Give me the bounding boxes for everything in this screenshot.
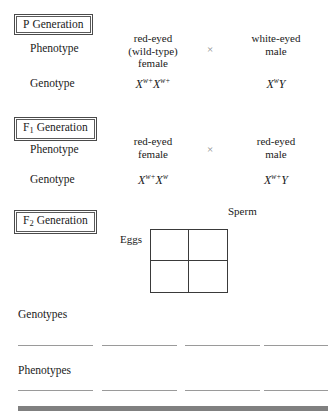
p-generation-female-genotype: Xw+Xw+	[105, 74, 201, 91]
p-generation-female-phenotype: red-eyed (wild-type) female	[105, 32, 201, 70]
f1-generation-female-phenotype-line1: red-eyed	[105, 135, 201, 148]
f1-generation-female-phenotype: red-eyed female	[105, 135, 201, 160]
footer-divider-bar	[18, 406, 328, 411]
f1-generation-label-text: F1Generation	[16, 119, 95, 139]
f2-generation-label-text: F2Generation	[16, 212, 95, 232]
genotype-blank-1[interactable]	[18, 345, 93, 346]
f1-generation-female-genotype-allele1-sup: w+	[145, 172, 155, 181]
genotype-blank-2[interactable]	[102, 345, 177, 346]
p-generation-female-phenotype-line1: red-eyed	[105, 32, 201, 45]
genotypes-label: Genotypes	[18, 307, 67, 321]
p-generation-male-phenotype-line1: white-eyed	[228, 32, 324, 45]
punnett-cell-4[interactable]	[189, 261, 227, 292]
p-generation-female-phenotype-line3: female	[105, 57, 201, 70]
phenotype-blank-1[interactable]	[18, 390, 93, 391]
sperm-axis-label: Sperm	[228, 205, 257, 218]
p-generation-female-phenotype-line2: (wild-type)	[105, 45, 201, 58]
p-generation-label-main: P	[23, 18, 29, 30]
f1-generation-label-word: Generation	[37, 121, 88, 133]
p-generation-phenotype-row-label: Phenotype	[30, 41, 79, 55]
f1-generation-male-phenotype-line2: male	[228, 148, 324, 161]
f2-generation-label-word: Generation	[37, 214, 88, 226]
phenotype-blank-2[interactable]	[102, 390, 177, 391]
f1-generation-phenotype-row-label: Phenotype	[30, 142, 79, 156]
f1-generation-male-phenotype: red-eyed male	[228, 135, 324, 160]
punnett-square[interactable]	[150, 229, 228, 293]
p-generation-female-genotype-allele2-sup: w+	[160, 76, 170, 85]
punnett-cell-1[interactable]	[151, 230, 189, 261]
f1-generation-label-sub: 1	[29, 125, 33, 135]
p-generation-male-phenotype-line2: male	[228, 45, 324, 58]
genotype-blank-4[interactable]	[264, 345, 328, 346]
f2-generation-label-sub: 2	[29, 218, 33, 228]
f1-generation-cross-symbol: ×	[203, 144, 217, 155]
p-generation-female-genotype-allele1-sup: w+	[143, 76, 153, 85]
p-generation-female-genotype-allele1-base: X	[136, 77, 143, 91]
p-generation-cross-symbol: ×	[203, 44, 217, 55]
f1-generation-female-genotype-allele2-sup: w	[163, 172, 168, 181]
f1-generation-female-genotype-allele2-base: X	[156, 173, 163, 187]
f1-generation-label-box: F1Generation	[14, 117, 97, 141]
p-generation-label-word: Generation	[32, 18, 83, 30]
f1-generation-male-genotype-allele1-sup: w+	[271, 172, 281, 181]
punnett-cell-2[interactable]	[189, 230, 227, 261]
worksheet-page: PGeneration Phenotype red-eyed (wild-typ…	[0, 0, 328, 415]
f1-generation-male-phenotype-line1: red-eyed	[228, 135, 324, 148]
f1-generation-male-genotype-allele2-base: Y	[281, 173, 288, 187]
f1-generation-male-genotype: Xw+Y	[228, 170, 324, 187]
phenotypes-label: Phenotypes	[18, 363, 71, 377]
f1-generation-genotype-row-label: Genotype	[30, 172, 75, 186]
f1-generation-female-phenotype-line2: female	[105, 148, 201, 161]
p-generation-label-text: PGeneration	[16, 16, 91, 33]
phenotype-blank-4[interactable]	[264, 390, 328, 391]
p-generation-genotype-row-label: Genotype	[30, 76, 75, 90]
f2-generation-label-box: F2Generation	[14, 210, 97, 234]
p-generation-male-genotype-allele1-base: X	[266, 77, 273, 91]
genotype-blank-3[interactable]	[185, 345, 260, 346]
p-generation-male-genotype: XwY	[228, 74, 324, 91]
punnett-cell-3[interactable]	[151, 261, 189, 292]
f1-generation-female-genotype: Xw+Xw	[105, 170, 201, 187]
phenotype-blank-3[interactable]	[185, 390, 260, 391]
p-generation-label-box: PGeneration	[14, 14, 93, 35]
p-generation-male-genotype-allele2-base: Y	[279, 77, 286, 91]
p-generation-male-phenotype: white-eyed male	[228, 32, 324, 57]
eggs-axis-label: Eggs	[120, 233, 142, 246]
